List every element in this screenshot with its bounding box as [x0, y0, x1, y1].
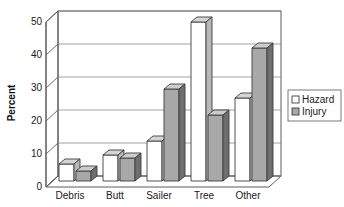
bar-group-debris: [59, 159, 97, 181]
legend-swatch-injury: [292, 108, 299, 115]
bar-other-injury: [252, 43, 273, 181]
legend-label-hazard: Hazard: [302, 94, 334, 105]
y-tick-label-0: 0: [36, 181, 42, 192]
y-tick-label-30: 30: [31, 82, 43, 93]
bar-sailer-injury: [164, 84, 185, 181]
bar-chart: 0 10 20 30 40 50 Percent: [0, 0, 344, 207]
bar-group-sailer: [147, 84, 185, 181]
bar-debris-injury: [76, 166, 97, 181]
chart-legend: Hazard Injury: [288, 90, 341, 121]
x-axis-labels: Debris Butt Sailer Tree Other: [56, 190, 262, 201]
y-tick-connector-50: [46, 11, 58, 22]
y-tick-label-40: 40: [31, 49, 43, 60]
x-tick-label-butt: Butt: [106, 190, 124, 201]
x-tick-label-debris: Debris: [56, 190, 85, 201]
bar-butt-injury: [120, 153, 141, 181]
y-tick-connector-30: [46, 77, 58, 88]
y-tick-connector-40: [46, 44, 58, 55]
y-tick-label-50: 50: [31, 16, 43, 27]
legend-label-injury: Injury: [302, 106, 326, 117]
y-tick-connector-20: [46, 110, 58, 121]
y-axis: 0 10 20 30 40 50: [31, 11, 58, 192]
chart-canvas: 0 10 20 30 40 50 Percent: [0, 0, 344, 207]
bar-group-other: [235, 43, 273, 181]
x-tick-label-tree: Tree: [194, 190, 215, 201]
bar-tree-injury: [208, 110, 229, 181]
bar-group-tree: [191, 17, 229, 181]
y-tick-label-10: 10: [31, 148, 43, 159]
legend-swatch-hazard: [292, 96, 299, 103]
y-tick-connector-0: [46, 176, 58, 187]
y-tick-label-20: 20: [31, 115, 43, 126]
bar-group-butt: [103, 150, 141, 181]
y-tick-connector-10: [46, 143, 58, 154]
plot-left-wall: [46, 11, 58, 187]
y-axis-title: Percent: [6, 84, 17, 121]
x-tick-label-sailer: Sailer: [146, 190, 172, 201]
x-tick-label-other: Other: [235, 190, 261, 201]
